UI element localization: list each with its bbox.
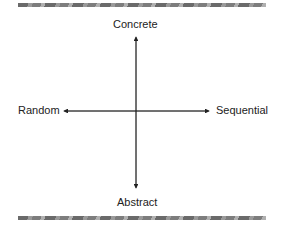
label-sequential: Sequential: [216, 104, 268, 116]
label-random: Random: [18, 104, 60, 116]
label-abstract: Abstract: [117, 196, 157, 208]
label-concrete: Concrete: [113, 18, 158, 30]
